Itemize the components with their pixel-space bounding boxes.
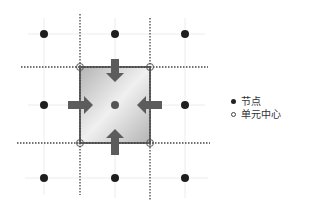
legend-label: 单元中心 — [241, 108, 281, 121]
cell-center-point — [111, 101, 119, 109]
legend: 节点 单元中心 — [228, 95, 281, 121]
node-point — [40, 101, 48, 109]
node-point — [40, 174, 48, 182]
filled-circle-icon — [228, 99, 238, 104]
node-point — [181, 174, 189, 182]
legend-label: 节点 — [241, 95, 261, 108]
node-point — [40, 30, 48, 38]
hollow-circle-icon — [228, 112, 238, 117]
node-point — [181, 30, 189, 38]
node-point — [111, 174, 119, 182]
legend-item-cell-center: 单元中心 — [228, 108, 281, 121]
legend-item-node: 节点 — [228, 95, 281, 108]
node-point — [181, 101, 189, 109]
node-point — [111, 30, 119, 38]
